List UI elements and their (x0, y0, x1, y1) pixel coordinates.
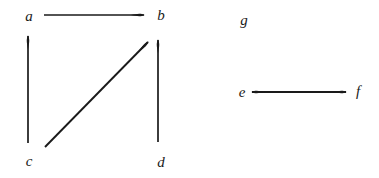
node-label-e: e (235, 85, 249, 100)
node-label-f: f (351, 84, 365, 99)
node-label-d: d (154, 155, 168, 170)
diagram-canvas: a b c d e f g (0, 0, 379, 178)
node-label-a: a (22, 9, 36, 24)
node-label-g: g (237, 13, 251, 28)
node-label-c: c (22, 154, 36, 169)
graph-edges-layer (0, 0, 379, 178)
node-label-b: b (154, 8, 168, 23)
edge-c-to-b-diagonal (45, 42, 148, 147)
